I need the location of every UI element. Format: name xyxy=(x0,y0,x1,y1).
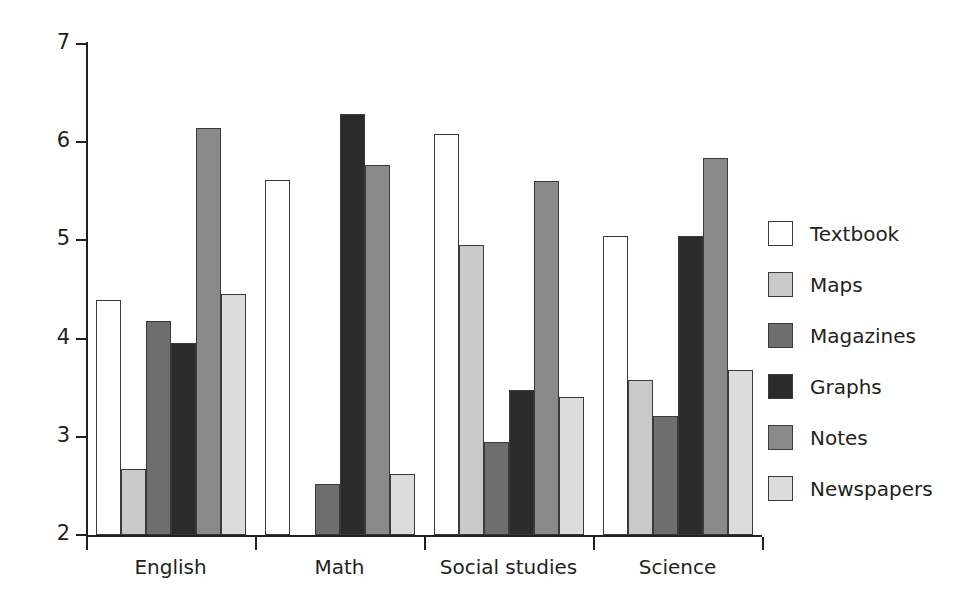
bar-science-textbook xyxy=(603,236,628,536)
bar-english-maps xyxy=(121,469,146,535)
bar-english-magazines xyxy=(146,321,171,535)
bar-english-textbook xyxy=(96,300,121,535)
legend-label: Notes xyxy=(810,427,868,449)
legend-label: Newspapers xyxy=(810,478,933,500)
bar-math-magazines xyxy=(315,484,340,535)
bar-social-studies-magazines xyxy=(484,442,509,535)
bar-english-notes xyxy=(196,128,221,535)
legend-swatch-notes-icon xyxy=(768,425,793,450)
legend: TextbookMapsMagazinesGraphsNotesNewspape… xyxy=(768,208,958,514)
legend-item-maps[interactable]: Maps xyxy=(768,259,958,310)
bar-social-studies-maps xyxy=(459,245,484,535)
legend-swatch-magazines-icon xyxy=(768,323,793,348)
legend-item-textbook[interactable]: Textbook xyxy=(768,208,958,259)
bar-social-studies-textbook xyxy=(434,134,459,535)
x-axis-category-label-science: Science xyxy=(593,555,762,579)
bar-math-newspapers xyxy=(390,474,415,535)
legend-label: Textbook xyxy=(810,223,899,245)
legend-swatch-graphs-icon xyxy=(768,374,793,399)
y-axis-tick-label: 7 xyxy=(36,32,70,53)
bar-science-newspapers xyxy=(728,370,753,535)
bar-chart: 234567 EnglishMathSocial studiesScience … xyxy=(0,0,963,615)
x-axis-category-label-math: Math xyxy=(255,555,424,579)
bar-english-graphs xyxy=(171,343,196,535)
bar-english-newspapers xyxy=(221,294,246,535)
legend-label: Magazines xyxy=(810,325,916,347)
x-axis-tick xyxy=(86,537,88,550)
legend-item-magazines[interactable]: Magazines xyxy=(768,310,958,361)
legend-swatch-maps-icon xyxy=(768,272,793,297)
y-axis-tick-label: 4 xyxy=(36,327,70,348)
x-axis-category-label-social-studies: Social studies xyxy=(424,555,593,579)
legend-swatch-textbook-icon xyxy=(768,221,793,246)
y-axis-tick-label: 5 xyxy=(36,228,70,249)
bar-science-graphs xyxy=(678,236,703,535)
y-axis-tick-label: 2 xyxy=(36,523,70,544)
x-axis-tick xyxy=(762,537,764,550)
bar-math-graphs xyxy=(340,114,365,535)
legend-swatch-newspapers-icon xyxy=(768,476,793,501)
y-axis-tick-label: 3 xyxy=(36,425,70,446)
bar-math-notes xyxy=(365,165,390,535)
bar-social-studies-notes xyxy=(534,181,559,536)
bar-math-textbook xyxy=(265,180,290,535)
x-axis-tick xyxy=(593,537,595,550)
legend-item-notes[interactable]: Notes xyxy=(768,412,958,463)
legend-item-newspapers[interactable]: Newspapers xyxy=(768,463,958,514)
y-axis-tick-labels: 234567 xyxy=(0,0,70,615)
bar-science-maps xyxy=(628,380,653,535)
y-axis-tick-label: 6 xyxy=(36,130,70,151)
bar-social-studies-graphs xyxy=(509,390,534,535)
bar-science-notes xyxy=(703,158,728,535)
x-axis-category-label-english: English xyxy=(86,555,255,579)
legend-label: Maps xyxy=(810,274,863,296)
legend-label: Graphs xyxy=(810,376,882,398)
bar-science-magazines xyxy=(653,416,678,535)
x-axis-tick xyxy=(255,537,257,550)
x-axis-tick xyxy=(424,537,426,550)
legend-item-graphs[interactable]: Graphs xyxy=(768,361,958,412)
bar-social-studies-newspapers xyxy=(559,397,584,535)
plot-area xyxy=(86,44,762,535)
